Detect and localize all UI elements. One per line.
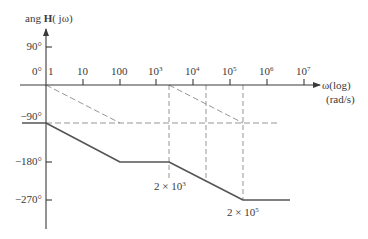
ytick-label-m180: −180° <box>2 156 42 167</box>
bode-phase-plot <box>0 0 368 239</box>
xtick-label-10: 10 <box>77 66 88 77</box>
component-asymptotes <box>46 85 279 123</box>
component-1-line <box>46 85 120 123</box>
ytick-label-0: 0° <box>2 66 42 77</box>
xtick-label-1e6: 106 <box>259 66 274 77</box>
xtick-label-100: 100 <box>111 66 128 77</box>
xtick-label-1e5: 105 <box>222 66 237 77</box>
xtick-label-1: 1 <box>48 66 54 77</box>
axes <box>20 29 320 229</box>
ytick-label-90: 90° <box>2 41 42 52</box>
xtick-label-1e4: 104 <box>185 66 200 77</box>
ytick-label-m270: −270° <box>2 194 42 205</box>
xtick-label-1e7: 107 <box>296 66 311 77</box>
y-axis-title: ang H( jω) <box>25 13 73 24</box>
x-axis-title-line1: ω(log) <box>322 80 351 91</box>
ytick-label-m90: −90° <box>2 111 42 122</box>
annotation-2e3: 2 × 103 <box>154 181 186 192</box>
xtick-label-1e3: 103 <box>148 66 163 77</box>
annotation-2e5: 2 × 105 <box>227 207 259 218</box>
x-axis-title-line2: (rad/s) <box>326 94 355 105</box>
